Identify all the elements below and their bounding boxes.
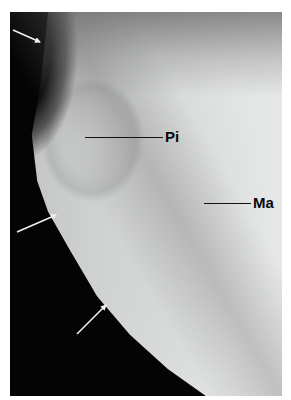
arrow-icon [77, 305, 106, 334]
arrow-icon [17, 215, 56, 232]
annotation-arrows [0, 0, 291, 400]
arrow-icon [13, 30, 40, 42]
